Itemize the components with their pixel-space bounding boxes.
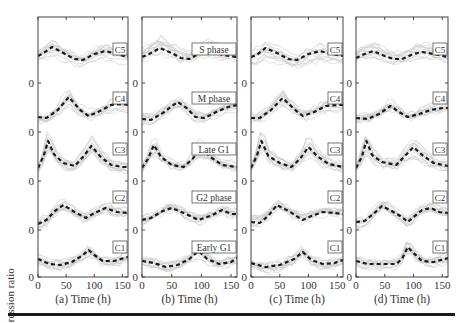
x-tick-label: 0	[353, 279, 359, 291]
x-tick-label: 50	[166, 279, 178, 291]
cluster-label: C4	[435, 94, 446, 104]
expression-ratio-figure: 05010015000000C5C4C3C2C1(a) Time (h)0501…	[0, 0, 462, 323]
y-zero-label: 0	[29, 175, 35, 187]
cluster-c2	[38, 200, 128, 231]
x-tick-label: 50	[379, 279, 391, 291]
cluster-label: C5	[435, 45, 446, 55]
cluster-label: C4	[330, 94, 341, 104]
panel-a: 05010015000000C5C4C3C2C1(a) Time (h)	[29, 17, 132, 306]
y-zero-label: 0	[133, 224, 139, 236]
cluster-label: C3	[330, 145, 341, 155]
x-tick-label: 0	[35, 279, 41, 291]
x-tick-label: 50	[61, 279, 73, 291]
bottom-rule	[8, 313, 455, 316]
x-tick-label: 150	[329, 279, 346, 291]
cluster-label: Early G1	[197, 243, 232, 253]
cluster-label: C1	[115, 243, 126, 253]
cluster-label: C1	[330, 243, 341, 253]
x-tick-label: 100	[86, 279, 103, 291]
y-zero-label: 0	[242, 126, 248, 138]
x-axis-label: (a) Time (h)	[55, 293, 111, 306]
cluster-label: C5	[115, 45, 126, 55]
x-tick-label: 50	[274, 279, 286, 291]
cluster-c2	[251, 200, 343, 227]
cluster-label: C4	[115, 94, 126, 104]
y-zero-label: 0	[29, 224, 35, 236]
cluster-g2-phase	[142, 202, 237, 226]
y-zero-label: 0	[29, 271, 35, 283]
y-zero-label: 0	[242, 175, 248, 187]
cluster-label: C2	[330, 193, 341, 203]
y-zero-label: 0	[133, 271, 139, 283]
x-tick-label: 100	[300, 279, 317, 291]
cluster-label: C3	[435, 145, 446, 155]
panel-c: 05010015000000C5C4C3C2C1(c) Time (h)	[242, 17, 347, 306]
cluster-label: C5	[330, 45, 341, 55]
x-axis-label: (b) Time (h)	[161, 293, 217, 306]
y-zero-label: 0	[347, 77, 353, 89]
cluster-label: Late G1	[199, 145, 230, 155]
y-zero-label: 0	[347, 126, 353, 138]
cluster-label: C2	[115, 193, 126, 203]
y-zero-label: 0	[133, 175, 139, 187]
x-tick-label: 0	[248, 279, 254, 291]
x-tick-label: 150	[114, 279, 131, 291]
y-zero-label: 0	[133, 77, 139, 89]
y-zero-label: 0	[29, 77, 35, 89]
cluster-label: G2 phase	[196, 193, 232, 203]
y-zero-label: 0	[347, 271, 353, 283]
y-zero-label: 0	[29, 126, 35, 138]
y-zero-label: 0	[347, 175, 353, 187]
y-zero-label: 0	[242, 77, 248, 89]
x-axis-label: (c) Time (h)	[269, 293, 325, 306]
panel-d: 05010015000000C5C4C3C2C1(d) Time (h)	[347, 17, 452, 306]
cluster-label: C3	[115, 145, 126, 155]
x-tick-label: 150	[223, 279, 240, 291]
y-zero-label: 0	[242, 271, 248, 283]
y-zero-label: 0	[133, 126, 139, 138]
cluster-label: C1	[435, 243, 446, 253]
panel-b: 05010015000000S phaseM phaseLate G1G2 ph…	[133, 17, 240, 306]
x-tick-label: 0	[139, 279, 145, 291]
y-zero-label: 0	[242, 224, 248, 236]
x-tick-label: 100	[405, 279, 422, 291]
x-axis-label: (d) Time (h)	[374, 293, 430, 306]
cluster-label: S phase	[199, 45, 228, 55]
cluster-label: C2	[435, 193, 446, 203]
y-zero-label: 0	[347, 224, 353, 236]
x-tick-label: 150	[434, 279, 451, 291]
cluster-c2	[356, 201, 448, 230]
cluster-label: M phase	[198, 94, 230, 104]
x-tick-label: 100	[193, 279, 210, 291]
